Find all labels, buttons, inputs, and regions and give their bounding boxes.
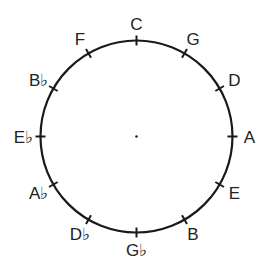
note-label: D — [228, 71, 240, 90]
note-label: C — [130, 15, 142, 34]
note-label: A — [244, 128, 256, 147]
note-label: F — [75, 30, 85, 49]
note-label: E♭ — [14, 128, 33, 147]
center-dot — [135, 135, 138, 138]
note-label: D♭ — [70, 225, 90, 244]
note-labels: CGDAEBG♭D♭A♭E♭B♭F — [14, 15, 256, 260]
note-label: A♭ — [29, 184, 48, 203]
note-label: B — [187, 225, 198, 244]
note-label: G♭ — [126, 241, 147, 260]
circle-of-fifths-diagram: CGDAEBG♭D♭A♭E♭B♭F — [0, 0, 265, 271]
note-label: B♭ — [29, 71, 48, 90]
note-label: E — [229, 184, 240, 203]
note-label: G — [186, 30, 199, 49]
